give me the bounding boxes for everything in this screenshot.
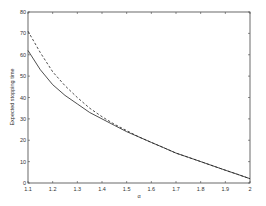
- y-tick-label: 10: [20, 159, 26, 165]
- x-tick-label: 1.9: [222, 186, 230, 192]
- x-tick-label: 1.3: [74, 186, 82, 192]
- y-tick-label: 40: [20, 95, 26, 101]
- x-tick-label: 1.4: [98, 186, 106, 192]
- x-tick-label: 1.8: [197, 186, 205, 192]
- y-tick-label: 30: [20, 116, 26, 122]
- x-tick-label: 2: [248, 186, 251, 192]
- x-tick-label: 1.6: [148, 186, 156, 192]
- axes-box: [28, 12, 250, 183]
- y-tick-label: 60: [20, 52, 26, 58]
- y-tick-label: 20: [20, 137, 26, 143]
- x-tick-label: 1.7: [172, 186, 180, 192]
- x-axis-label: α: [137, 193, 141, 199]
- plot-area: [28, 12, 250, 183]
- x-tick-label: 1.1: [24, 186, 32, 192]
- x-tick-label: 1.5: [123, 186, 131, 192]
- y-tick-label: 80: [20, 9, 26, 15]
- x-tick-label: 1.2: [49, 186, 57, 192]
- line-chart: 01020304050607080 1.11.21.31.41.51.61.71…: [0, 0, 266, 206]
- y-tick-label: 70: [20, 30, 26, 36]
- y-axis-label: Expected stopping time: [9, 68, 15, 125]
- y-tick-label: 50: [20, 73, 26, 79]
